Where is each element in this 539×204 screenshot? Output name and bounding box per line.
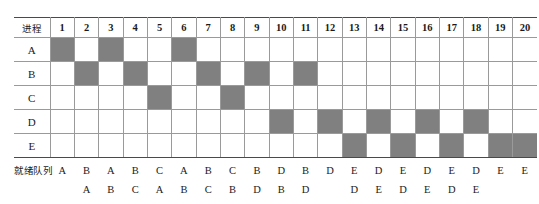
gantt-cell-empty[interactable]	[99, 110, 123, 134]
gantt-cell-empty[interactable]	[342, 62, 366, 86]
gantt-cell-empty[interactable]	[74, 134, 98, 158]
gantt-cell-empty[interactable]	[488, 62, 512, 86]
gantt-cell-empty[interactable]	[440, 38, 464, 62]
gantt-cell-empty[interactable]	[123, 38, 147, 62]
gantt-cell-empty[interactable]	[269, 38, 293, 62]
gantt-cell-filled[interactable]	[50, 38, 74, 62]
gantt-cell-empty[interactable]	[415, 38, 439, 62]
gantt-cell-empty[interactable]	[440, 62, 464, 86]
gantt-cell-empty[interactable]	[123, 134, 147, 158]
gantt-cell-empty[interactable]	[318, 134, 342, 158]
gantt-cell-filled[interactable]	[464, 110, 488, 134]
gantt-cell-empty[interactable]	[342, 110, 366, 134]
gantt-cell-empty[interactable]	[440, 110, 464, 134]
gantt-cell-empty[interactable]	[513, 86, 537, 110]
gantt-cell-empty[interactable]	[220, 62, 244, 86]
gantt-cell-empty[interactable]	[391, 38, 415, 62]
gantt-cell-filled[interactable]	[415, 110, 439, 134]
gantt-cell-filled[interactable]	[74, 62, 98, 86]
gantt-cell-empty[interactable]	[245, 110, 269, 134]
gantt-cell-empty[interactable]	[293, 86, 317, 110]
gantt-cell-empty[interactable]	[366, 86, 390, 110]
gantt-cell-empty[interactable]	[415, 62, 439, 86]
gantt-cell-filled[interactable]	[147, 86, 171, 110]
gantt-cell-empty[interactable]	[147, 134, 171, 158]
gantt-cell-empty[interactable]	[464, 86, 488, 110]
gantt-cell-empty[interactable]	[123, 86, 147, 110]
gantt-cell-filled[interactable]	[318, 110, 342, 134]
gantt-cell-filled[interactable]	[245, 62, 269, 86]
gantt-cell-empty[interactable]	[269, 134, 293, 158]
gantt-cell-empty[interactable]	[74, 38, 98, 62]
gantt-cell-filled[interactable]	[123, 62, 147, 86]
gantt-cell-filled[interactable]	[342, 134, 366, 158]
gantt-cell-empty[interactable]	[464, 134, 488, 158]
gantt-cell-empty[interactable]	[464, 38, 488, 62]
gantt-cell-empty[interactable]	[245, 38, 269, 62]
gantt-cell-empty[interactable]	[99, 62, 123, 86]
gantt-cell-empty[interactable]	[172, 86, 196, 110]
gantt-cell-empty[interactable]	[50, 134, 74, 158]
gantt-cell-empty[interactable]	[342, 86, 366, 110]
gantt-cell-empty[interactable]	[50, 62, 74, 86]
gantt-cell-empty[interactable]	[488, 86, 512, 110]
gantt-cell-empty[interactable]	[391, 86, 415, 110]
gantt-cell-empty[interactable]	[391, 110, 415, 134]
gantt-cell-filled[interactable]	[488, 134, 512, 158]
gantt-cell-empty[interactable]	[415, 134, 439, 158]
gantt-cell-empty[interactable]	[269, 86, 293, 110]
gantt-cell-filled[interactable]	[269, 110, 293, 134]
gantt-cell-empty[interactable]	[99, 134, 123, 158]
gantt-cell-filled[interactable]	[99, 38, 123, 62]
gantt-cell-empty[interactable]	[366, 62, 390, 86]
gantt-cell-empty[interactable]	[196, 134, 220, 158]
gantt-cell-empty[interactable]	[293, 38, 317, 62]
gantt-cell-filled[interactable]	[391, 134, 415, 158]
gantt-cell-empty[interactable]	[488, 110, 512, 134]
gantt-cell-empty[interactable]	[513, 110, 537, 134]
gantt-cell-empty[interactable]	[196, 110, 220, 134]
gantt-cell-empty[interactable]	[74, 110, 98, 134]
gantt-cell-empty[interactable]	[172, 110, 196, 134]
gantt-cell-empty[interactable]	[415, 86, 439, 110]
gantt-cell-empty[interactable]	[488, 38, 512, 62]
gantt-cell-empty[interactable]	[220, 38, 244, 62]
gantt-cell-empty[interactable]	[74, 86, 98, 110]
gantt-cell-empty[interactable]	[293, 110, 317, 134]
gantt-cell-empty[interactable]	[245, 134, 269, 158]
gantt-cell-empty[interactable]	[147, 110, 171, 134]
gantt-cell-empty[interactable]	[220, 110, 244, 134]
gantt-cell-filled[interactable]	[440, 134, 464, 158]
gantt-cell-filled[interactable]	[172, 38, 196, 62]
gantt-cell-empty[interactable]	[318, 62, 342, 86]
gantt-cell-empty[interactable]	[318, 38, 342, 62]
gantt-cell-empty[interactable]	[440, 86, 464, 110]
gantt-cell-empty[interactable]	[464, 62, 488, 86]
gantt-cell-empty[interactable]	[147, 38, 171, 62]
gantt-cell-filled[interactable]	[220, 86, 244, 110]
gantt-cell-empty[interactable]	[50, 110, 74, 134]
gantt-cell-empty[interactable]	[513, 38, 537, 62]
gantt-cell-empty[interactable]	[342, 38, 366, 62]
gantt-cell-empty[interactable]	[196, 38, 220, 62]
gantt-cell-filled[interactable]	[366, 110, 390, 134]
gantt-cell-filled[interactable]	[196, 62, 220, 86]
gantt-cell-empty[interactable]	[147, 62, 171, 86]
gantt-cell-empty[interactable]	[99, 86, 123, 110]
gantt-cell-empty[interactable]	[513, 62, 537, 86]
gantt-cell-empty[interactable]	[123, 110, 147, 134]
gantt-cell-empty[interactable]	[366, 38, 390, 62]
gantt-cell-empty[interactable]	[245, 86, 269, 110]
gantt-cell-empty[interactable]	[172, 62, 196, 86]
gantt-cell-empty[interactable]	[269, 62, 293, 86]
gantt-cell-empty[interactable]	[293, 134, 317, 158]
gantt-cell-empty[interactable]	[50, 86, 74, 110]
gantt-cell-filled[interactable]	[513, 134, 537, 158]
gantt-cell-empty[interactable]	[196, 86, 220, 110]
gantt-cell-empty[interactable]	[172, 134, 196, 158]
gantt-cell-empty[interactable]	[318, 86, 342, 110]
gantt-cell-empty[interactable]	[366, 134, 390, 158]
gantt-cell-empty[interactable]	[220, 134, 244, 158]
gantt-cell-filled[interactable]	[293, 62, 317, 86]
gantt-cell-empty[interactable]	[391, 62, 415, 86]
